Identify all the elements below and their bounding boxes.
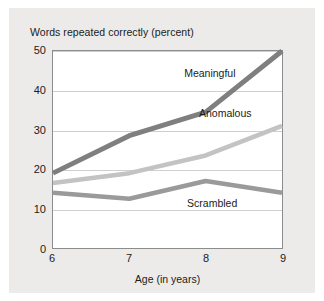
x-tick-9: 9 — [280, 252, 286, 264]
series-label-scrambled: Scrambled — [187, 197, 237, 209]
y-tick-30: 30 — [34, 124, 46, 136]
x-axis-tick-labels: 6789 — [52, 252, 283, 268]
y-tick-50: 50 — [34, 44, 46, 56]
y-tick-20: 20 — [34, 163, 46, 175]
x-tick-6: 6 — [49, 252, 55, 264]
y-tick-0: 0 — [40, 243, 46, 255]
x-tick-7: 7 — [126, 252, 132, 264]
y-axis-tick-labels: 01020304050 — [18, 50, 46, 249]
chart-figure: Words repeated correctly (percent) 01020… — [0, 0, 324, 301]
x-tick-8: 8 — [203, 252, 209, 264]
series-lines — [53, 51, 282, 248]
series-line-scrambled — [53, 181, 282, 199]
x-axis-label: Age (in years) — [52, 273, 283, 285]
y-tick-40: 40 — [34, 84, 46, 96]
y-tick-10: 10 — [34, 203, 46, 215]
plot-area — [52, 50, 283, 249]
chart-title: Words repeated correctly (percent) — [30, 26, 194, 38]
series-label-anomalous: Anomalous — [199, 107, 252, 119]
series-label-meaningful: Meaningful — [184, 67, 235, 79]
